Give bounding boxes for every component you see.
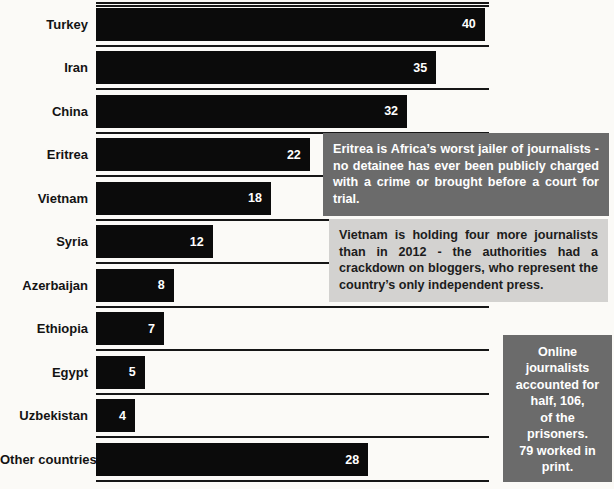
category-label: Uzbekistan: [0, 399, 88, 432]
eritrea-annotation: Eritrea is Africa’s worst jailer of jour…: [323, 133, 609, 216]
vietnam-annotation: Vietnam is holding four more journalists…: [329, 219, 608, 302]
bar-value-label: 8: [158, 278, 165, 292]
bar-value-label: 5: [129, 365, 136, 379]
jailed-journalists-bar-chart: Turkey40Iran35China32Eritrea22Vietnam18S…: [0, 0, 614, 489]
bar: 5: [96, 356, 145, 389]
row-separator-line: [96, 349, 489, 351]
online-journalists-annotation: Online journalists accounted for half, 1…: [503, 335, 612, 482]
bar-value-label: 35: [413, 61, 427, 75]
row-separator-line: [96, 393, 489, 395]
bar: 28: [96, 443, 368, 476]
row-separator-line: [96, 88, 489, 90]
bar: 12: [96, 225, 213, 258]
row-separator-line: [96, 45, 489, 47]
bar: 4: [96, 399, 135, 432]
axis-top-line-1: [96, 2, 489, 4]
bar: 22: [96, 138, 310, 171]
bar: 35: [96, 51, 436, 84]
category-label: Iran: [0, 51, 88, 84]
bar: 8: [96, 269, 174, 302]
bar-value-label: 40: [462, 17, 476, 31]
bar-value-label: 12: [190, 235, 204, 249]
bar-value-label: 18: [248, 191, 262, 205]
bar-row: China32: [0, 95, 614, 139]
category-label: Syria: [0, 225, 88, 258]
category-label: Egypt: [0, 356, 88, 389]
category-label: Eritrea: [0, 138, 88, 171]
bar: 7: [96, 312, 164, 345]
category-label: Ethiopia: [0, 312, 88, 345]
category-label: Vietnam: [0, 182, 88, 215]
bar-value-label: 7: [148, 322, 155, 336]
category-label: China: [0, 95, 88, 128]
bar: 32: [96, 95, 407, 128]
bar-value-label: 4: [119, 409, 126, 423]
bar-value-label: 22: [287, 148, 301, 162]
bar-row: Turkey40: [0, 8, 614, 52]
bar-value-label: 32: [384, 104, 398, 118]
bar: 40: [96, 8, 485, 41]
bar-row: Iran35: [0, 51, 614, 95]
category-label: Other countries*: [0, 443, 88, 476]
bar: 18: [96, 182, 271, 215]
row-separator-line: [96, 436, 489, 438]
bar-value-label: 28: [345, 453, 359, 467]
category-label: Azerbaijan: [0, 269, 88, 302]
row-separator-line: [96, 306, 489, 308]
category-label: Turkey: [0, 8, 88, 41]
row-separator-line: [96, 480, 489, 482]
